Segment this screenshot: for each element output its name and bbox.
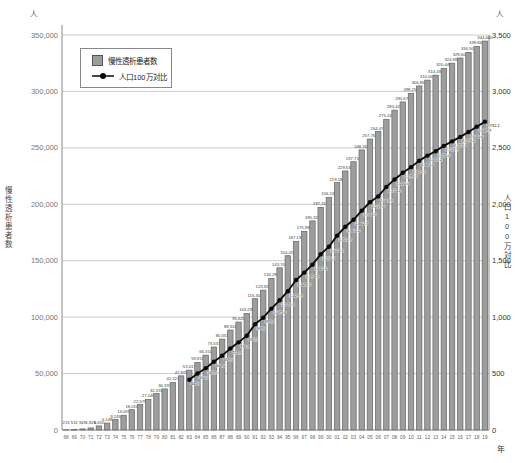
x-tick-label: 76	[129, 435, 135, 440]
bar	[154, 394, 159, 430]
x-tick-label: 89	[236, 435, 242, 440]
bar	[129, 410, 134, 430]
x-axis-unit-label: 年	[497, 443, 505, 454]
x-tick-label: 81	[170, 435, 176, 440]
x-tick-label: 91	[252, 435, 258, 440]
x-tick-label: 15	[449, 435, 455, 440]
bar	[326, 197, 331, 430]
x-tick-label: 90	[244, 435, 250, 440]
legend-bar-label: 慢性透析患者数	[108, 55, 157, 66]
right-axis-unit-label: 人	[496, 8, 503, 19]
x-tick-label: 08	[392, 435, 398, 440]
bar	[351, 162, 356, 430]
ratio-value-label: 1,556.7	[322, 256, 336, 261]
bar	[277, 268, 282, 430]
bar	[137, 405, 142, 430]
bar	[367, 139, 372, 430]
ratio-value-label: 604.6	[215, 363, 226, 368]
bar-value-label: 80,553	[216, 333, 229, 338]
legend: 慢性透析患者数 人口100万対比	[80, 48, 172, 88]
x-tick-label: 71	[88, 435, 94, 440]
bar	[449, 63, 454, 430]
bar	[260, 290, 265, 430]
bar	[302, 231, 307, 430]
bar	[236, 322, 241, 430]
x-tick-label: 97	[302, 435, 308, 440]
bar	[293, 241, 298, 430]
bar	[88, 428, 93, 430]
legend-line-entry: 人口100万対比	[92, 71, 171, 82]
x-tick-label: 68	[63, 435, 69, 440]
bar-value-label: 531	[71, 420, 79, 425]
bar-value-label: 73,537	[208, 341, 221, 346]
bar	[425, 80, 430, 430]
bar	[408, 93, 413, 430]
ratio-value-label: 1,943.5	[363, 212, 377, 217]
x-tick-label: 03	[351, 435, 357, 440]
ratio-value-label: 445.3	[191, 381, 202, 386]
legend-line-label: 人口100万対比	[119, 71, 167, 82]
ratio-value-label: 995.2	[265, 319, 276, 324]
bar	[146, 399, 151, 430]
bar-value-label: 42,223	[166, 376, 179, 381]
bar	[400, 102, 405, 430]
y-axis-tick-label-right: 2,500	[492, 143, 511, 152]
ratio-value-label: 1,465.2	[314, 266, 328, 271]
bar-value-label: 344,640	[477, 35, 493, 40]
y-axis-tick-label-left: 300,000	[0, 87, 58, 96]
bar	[318, 207, 323, 430]
y-axis-tick-label-left: 250,000	[0, 143, 58, 152]
ratio-value-label: 1,862.7	[355, 221, 369, 226]
bar	[458, 58, 463, 430]
x-tick-label: 69	[72, 435, 78, 440]
x-tick-label: 95	[285, 435, 291, 440]
bar-value-label: 32,331	[150, 388, 163, 393]
x-tick-label: 16	[458, 435, 464, 440]
y-axis-tick-label-right: 0	[492, 426, 496, 435]
ratio-value-label: 2,470.0	[437, 153, 451, 158]
bar-value-label: 36,397	[158, 383, 171, 388]
bar	[285, 256, 290, 430]
ratio-value-label: 937.6	[256, 326, 267, 331]
bar	[269, 278, 274, 430]
ratio-value-label: 547.9	[207, 370, 218, 375]
bar-value-label: 22,579	[134, 399, 147, 404]
ratio-value-label: 2,597.2	[462, 138, 476, 143]
x-tick-label: 83	[187, 435, 193, 440]
bar	[474, 46, 479, 430]
bar-value-label: 59,811	[191, 356, 204, 361]
ratio-value-label: 2,069.9	[380, 198, 394, 203]
legend-bar-entry: 慢性透析患者数	[92, 55, 171, 66]
ratio-value-label: 2,279.7	[404, 174, 418, 179]
x-tick-label: 00	[326, 435, 332, 440]
ratio-value-label: 2,385.4	[421, 162, 435, 167]
bar	[72, 429, 77, 430]
bar	[244, 313, 249, 430]
y-axis-tick-label-right: 3,000	[492, 87, 511, 96]
bar	[392, 110, 397, 430]
bar	[310, 221, 315, 430]
bar	[375, 132, 380, 430]
x-tick-label: 75	[121, 435, 127, 440]
ratio-value-label: 2,640.0	[470, 134, 484, 139]
x-tick-label: 12	[425, 435, 431, 440]
ratio-value-label: 1,394.9	[306, 274, 320, 279]
bar	[80, 429, 85, 430]
y-axis-tick-label-right: 3,500	[492, 31, 511, 40]
ratio-value-label: 2,017.6	[371, 204, 385, 209]
ratio-value-label: 2,687.7	[478, 128, 492, 133]
x-tick-label: 09	[400, 435, 406, 440]
y-axis-tick-label-left: 0	[0, 426, 58, 435]
left-axis-title: 慢性透析患者数	[4, 186, 12, 249]
ratio-value-label: 2,557.7	[454, 143, 468, 148]
x-tick-label: 19	[482, 435, 488, 440]
x-tick-label: 70	[80, 435, 86, 440]
bar-value-label: 215	[63, 420, 71, 425]
ratio-value-label: 2,154.2	[388, 188, 402, 193]
bar	[228, 330, 233, 430]
ratio-value-label: 2,329.1	[412, 169, 426, 174]
bar-value-label: 95,620	[232, 316, 245, 321]
bar	[359, 150, 364, 430]
y-axis-tick-label-right: 1,000	[492, 313, 511, 322]
bar	[441, 68, 446, 430]
